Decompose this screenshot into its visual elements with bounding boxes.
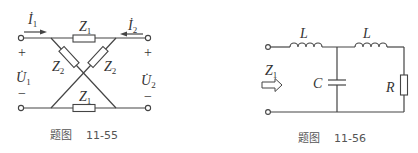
- resistor-r: [401, 75, 408, 95]
- label-z2-right: Z2: [104, 59, 116, 76]
- terminal-2-bottom: [145, 105, 150, 110]
- terminal-top: [266, 45, 271, 50]
- plus-sign-port1: +: [18, 45, 26, 60]
- label-l1: L: [299, 26, 308, 41]
- inductor-l1: [290, 43, 322, 47]
- terminal-2-top: [145, 35, 150, 40]
- label-i1: İ1: [27, 12, 37, 29]
- label-c: C: [313, 76, 323, 91]
- minus-sign-port2: −: [144, 89, 152, 104]
- plus-sign-port2: +: [144, 45, 152, 60]
- label-z1-top: Z1: [79, 19, 91, 36]
- caption-11-56: 题图 11-56: [298, 132, 366, 145]
- label-r: R: [385, 80, 395, 95]
- minus-sign-port1: −: [18, 86, 26, 101]
- inductor-l2: [355, 43, 387, 47]
- label-u1: U̇1: [16, 70, 31, 87]
- terminal-1-top: [18, 35, 23, 40]
- lattice-network-11-55: İ1 İ2 Z1 Z1 Z2 Z2 + U̇1 − + U̇2 − 题图 11-…: [16, 12, 156, 142]
- label-i2: İ2: [127, 18, 137, 35]
- circuit-diagrams: İ1 İ2 Z1 Z1 Z2 Z2 + U̇1 − + U̇2 − 题图 11-…: [0, 0, 418, 153]
- resistor-z1-top: [73, 35, 95, 42]
- caption-11-55: 题图 11-55: [50, 129, 118, 142]
- arrow-right-icon: [40, 30, 47, 35]
- terminal-bottom: [266, 110, 271, 115]
- ladder-network-11-56: L L C R Z1 题图 11-56: [262, 26, 408, 145]
- arrow-left-icon: [120, 32, 127, 37]
- resistor-z2-left: [59, 47, 79, 68]
- terminal-1-bottom: [18, 105, 23, 110]
- label-u2: U̇2: [141, 73, 156, 90]
- label-l2: L: [362, 26, 371, 41]
- resistor-z1-bottom: [73, 105, 95, 112]
- label-z1-bottom: Z1: [79, 89, 91, 106]
- hollow-arrow-right-icon: [262, 79, 282, 92]
- label-z1: Z1: [265, 63, 277, 80]
- label-z2-left: Z2: [52, 59, 64, 76]
